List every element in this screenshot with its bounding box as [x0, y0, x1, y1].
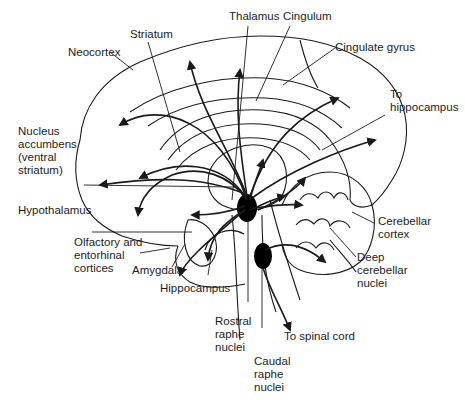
- brain-outline: [76, 36, 407, 340]
- label-amygdala: Amygdala: [132, 264, 183, 277]
- label-deep-cerebellar-nuclei: Deep cerebellar nuclei: [357, 251, 408, 290]
- label-striatum: Striatum: [130, 28, 173, 41]
- label-to-hippocampus: To hippocampus: [390, 88, 458, 114]
- projection-arrows: [100, 62, 375, 330]
- leader-lines: [84, 26, 385, 328]
- brain-diagram: Thalamus Cingulum Striatum Neocortex Cin…: [0, 0, 465, 400]
- label-nucleus-accumbens: Nucleus accumbens (ventral striatum): [18, 125, 77, 177]
- label-cingulum: Cingulum: [283, 10, 332, 23]
- label-neocortex: Neocortex: [68, 46, 120, 59]
- label-thalamus: Thalamus: [229, 10, 280, 23]
- label-hippocampus: Hippocampus: [160, 282, 230, 295]
- label-caudal-raphe: Caudal raphe nuclei: [254, 355, 290, 394]
- caudal-raphe-nucleus: [254, 243, 272, 269]
- label-rostral-raphe: Rostral raphe nuclei: [215, 315, 251, 354]
- label-cingulate-gyrus: Cingulate gyrus: [335, 41, 415, 54]
- label-hypothalamus: Hypothalamus: [18, 204, 92, 217]
- label-to-spinal-cord: To spinal cord: [284, 330, 355, 343]
- label-cerebellar-cortex: Cerebellar cortex: [378, 215, 431, 241]
